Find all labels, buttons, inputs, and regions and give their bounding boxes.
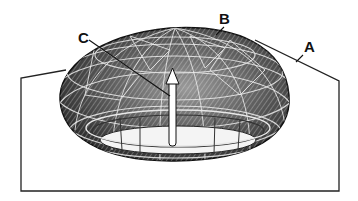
inner-opening — [100, 126, 256, 154]
leader-a — [296, 55, 303, 62]
label-c: C — [78, 30, 89, 45]
label-a: A — [304, 39, 315, 54]
label-b: B — [219, 11, 230, 26]
dome-diagram — [0, 0, 358, 201]
